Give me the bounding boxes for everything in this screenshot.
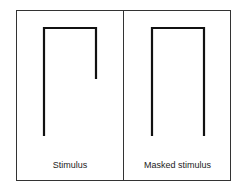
stimulus-label: Stimulus	[17, 160, 123, 170]
stimulus-shape	[44, 28, 96, 136]
masked-stimulus-shape	[152, 28, 204, 136]
masked-stimulus-label: Masked stimulus	[124, 160, 231, 170]
